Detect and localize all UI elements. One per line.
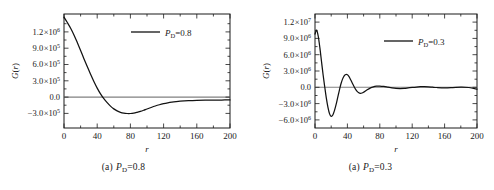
svg-text:3.0×105: 3.0×105	[33, 76, 60, 86]
plot-area-1: PD=0.3	[315, 14, 477, 128]
plot-area-0: PD=0.8	[64, 14, 230, 128]
svg-text:160: 160	[438, 131, 452, 141]
x-tick-labels-1: 0 40 80 120 160 200	[313, 131, 485, 141]
svg-text:200: 200	[223, 131, 237, 141]
figure-panel-a: PD=0.8 0 40 80 120 160 200 r 1.2×106 9.0…	[0, 0, 247, 190]
caption-index: (a)	[102, 162, 113, 172]
panel-caption-b: (a)PD=0.3	[247, 162, 494, 174]
svg-text:3.0×106: 3.0×106	[284, 66, 311, 76]
svg-text:−6.0×106: −6.0×106	[279, 115, 311, 125]
svg-text:0: 0	[313, 131, 318, 141]
caption-index: (a)	[349, 162, 360, 172]
svg-text:40: 40	[343, 131, 353, 141]
y-tick-labels-0: 1.2×106 9.0×105 6.0×105 3.0×105 0.0 −3.0…	[28, 27, 60, 119]
svg-text:120: 120	[405, 131, 419, 141]
svg-text:120: 120	[157, 131, 171, 141]
svg-text:−3.0×106: −3.0×106	[279, 99, 311, 109]
svg-text:80: 80	[375, 131, 385, 141]
x-axis-label-0: r	[145, 144, 149, 154]
svg-text:160: 160	[190, 131, 204, 141]
y-axis-label-1: G(r)	[261, 63, 271, 79]
svg-text:0.0: 0.0	[300, 82, 311, 92]
svg-text:200: 200	[470, 131, 484, 141]
svg-text:6.0×106: 6.0×106	[284, 50, 311, 60]
x-axis-label-1: r	[394, 144, 398, 154]
y-tick-labels-1: 1.2×107 9.0×106 6.0×106 3.0×106 0.0 −3.0…	[279, 17, 311, 125]
svg-text:1.2×106: 1.2×106	[33, 27, 60, 37]
svg-text:40: 40	[93, 131, 103, 141]
caption-value: =0.8	[127, 162, 145, 172]
y-axis-label-0: G(r)	[10, 63, 20, 79]
figure-panel-b: PD=0.3 0 40 80 120 160 200 r 1.2×107 9.0…	[247, 0, 494, 190]
svg-text:−3.0×105: −3.0×105	[28, 108, 60, 118]
svg-text:9.0×106: 9.0×106	[284, 33, 311, 43]
svg-text:6.0×105: 6.0×105	[33, 59, 60, 69]
svg-text:0: 0	[62, 131, 67, 141]
figure-container: PD=0.8 0 40 80 120 160 200 r 1.2×106 9.0…	[0, 0, 494, 190]
plot-frame	[315, 14, 477, 128]
svg-text:1.2×107: 1.2×107	[284, 17, 311, 27]
legend-label: PD=0.8	[164, 28, 192, 39]
panel-caption-a: (a)PD=0.8	[0, 162, 247, 174]
x-tick-labels-0: 0 40 80 120 160 200	[62, 131, 238, 141]
svg-text:80: 80	[126, 131, 136, 141]
caption-value: =0.3	[374, 162, 392, 172]
svg-text:9.0×105: 9.0×105	[33, 43, 60, 53]
legend-label: PD=0.3	[417, 37, 445, 48]
svg-text:0.0: 0.0	[49, 92, 60, 102]
